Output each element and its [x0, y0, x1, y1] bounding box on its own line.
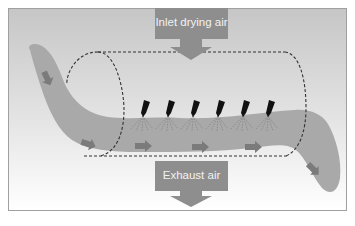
exhaust-air-label: Exhaust air: [155, 170, 228, 182]
inlet-air-label: Inlet drying air: [155, 17, 228, 29]
process-diagram: [0, 0, 355, 226]
